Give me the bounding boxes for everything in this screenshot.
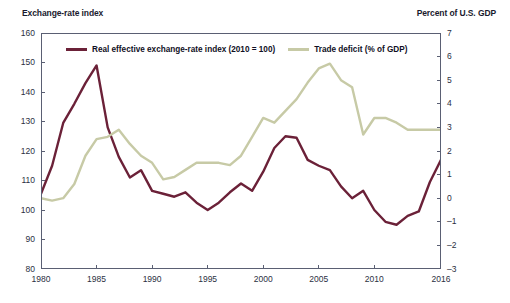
- plot-area: [41, 33, 441, 269]
- y2-tick-label: 3: [447, 122, 477, 132]
- y2-tick-label: –1: [447, 216, 477, 226]
- y-tick-label: 150: [5, 57, 35, 67]
- y2-tick-mark: [437, 151, 441, 152]
- y2-tick-label: 7: [447, 28, 477, 38]
- x-tick-label: 2000: [243, 274, 283, 284]
- y2-tick-mark: [437, 127, 441, 128]
- y2-tick-mark: [437, 245, 441, 246]
- y2-tick-mark: [437, 80, 441, 81]
- left-axis-title: Exchange-rate index: [22, 8, 103, 18]
- x-tick-label: 2010: [354, 274, 394, 284]
- y-tick-label: 160: [5, 28, 35, 38]
- y-tick-label: 120: [5, 146, 35, 156]
- y-tick-mark: [41, 151, 45, 152]
- legend-item-trade-deficit: Trade deficit (% of GDP): [288, 45, 407, 54]
- x-tick-label: 1990: [132, 274, 172, 284]
- legend-swatch-trade-deficit: [288, 48, 309, 51]
- legend-swatch-exchange-rate: [66, 48, 87, 51]
- legend-label-exchange-rate: Real effective exchange-rate index (2010…: [92, 45, 275, 54]
- y-tick-label: 90: [5, 234, 35, 244]
- y2-tick-mark: [437, 174, 441, 175]
- y-tick-label: 140: [5, 87, 35, 97]
- y2-tick-label: 4: [447, 98, 477, 108]
- chart-legend: Real effective exchange-rate index (2010…: [66, 45, 407, 54]
- y-tick-label: 130: [5, 116, 35, 126]
- y-tick-mark: [41, 180, 45, 181]
- legend-label-trade-deficit: Trade deficit (% of GDP): [314, 45, 407, 54]
- y-tick-mark: [41, 62, 45, 63]
- x-tick-mark: [152, 265, 153, 269]
- x-tick-mark: [96, 265, 97, 269]
- y-tick-mark: [41, 92, 45, 93]
- chart-lines: [41, 33, 441, 269]
- y2-tick-label: 2: [447, 146, 477, 156]
- y-tick-label: 100: [5, 205, 35, 215]
- x-tick-mark: [263, 265, 264, 269]
- x-tick-label: 2016: [421, 274, 461, 284]
- y2-tick-label: –2: [447, 240, 477, 250]
- x-tick-mark: [318, 265, 319, 269]
- y2-tick-mark: [437, 221, 441, 222]
- chart-figure: Exchange-rate index Percent of U.S. GDP …: [0, 0, 510, 303]
- y2-tick-mark: [437, 103, 441, 104]
- y2-tick-label: 1: [447, 169, 477, 179]
- y-tick-label: 80: [5, 264, 35, 274]
- y-tick-mark: [41, 210, 45, 211]
- x-tick-mark: [374, 265, 375, 269]
- legend-item-exchange-rate: Real effective exchange-rate index (2010…: [66, 45, 275, 54]
- x-tick-label: 1995: [188, 274, 228, 284]
- y2-tick-label: 0: [447, 193, 477, 203]
- x-tick-label: 1980: [21, 274, 61, 284]
- x-tick-label: 2005: [299, 274, 339, 284]
- y2-tick-mark: [437, 198, 441, 199]
- y2-tick-label: 6: [447, 51, 477, 61]
- y2-tick-label: –3: [447, 264, 477, 274]
- x-tick-label: 1985: [77, 274, 117, 284]
- series-line: [41, 65, 441, 224]
- right-axis-title: Percent of U.S. GDP: [417, 8, 496, 18]
- y-tick-mark: [41, 121, 45, 122]
- y-tick-label: 110: [5, 175, 35, 185]
- y-tick-mark: [41, 239, 45, 240]
- y2-tick-mark: [437, 56, 441, 57]
- y2-tick-label: 5: [447, 75, 477, 85]
- x-tick-mark: [207, 265, 208, 269]
